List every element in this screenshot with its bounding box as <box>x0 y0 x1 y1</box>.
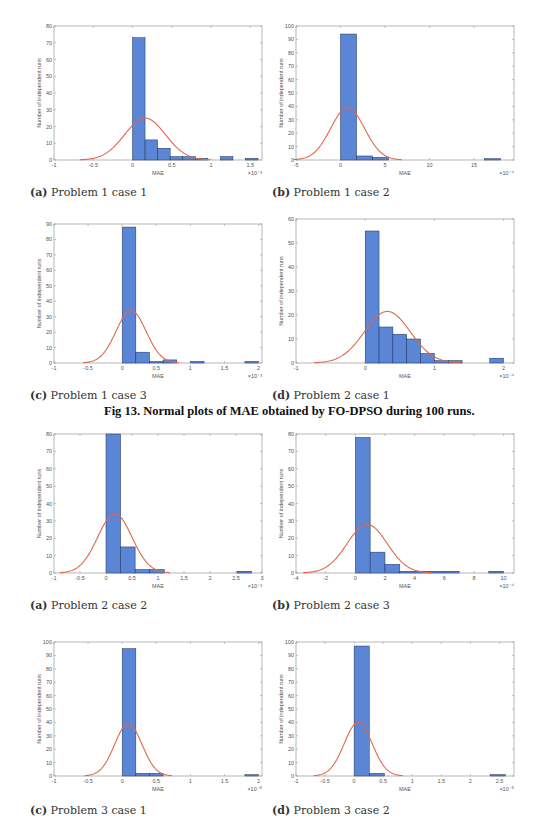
svg-text:2: 2 <box>208 575 211 581</box>
svg-text:20: 20 <box>288 535 294 541</box>
svg-text:90: 90 <box>288 36 294 42</box>
caption-text: Problem 2 case 1 <box>294 389 390 402</box>
svg-text:50: 50 <box>46 73 52 79</box>
svg-text:10: 10 <box>46 553 52 559</box>
caption-text: Problem 3 case 2 <box>294 804 390 817</box>
histogram-bar <box>421 353 435 363</box>
svg-text:20: 20 <box>46 535 52 541</box>
svg-text:60: 60 <box>288 466 294 472</box>
histogram-svg: -50510150102030405060708090100MAE×10⁻⁴Nu… <box>272 22 522 182</box>
chart-p2c1: -10120102030405060MAE×10⁻⁴Number of inde… <box>272 215 522 385</box>
svg-text:90: 90 <box>46 652 52 658</box>
histogram-bar <box>190 361 204 363</box>
svg-text:60: 60 <box>46 267 52 273</box>
svg-text:40: 40 <box>288 501 294 507</box>
chart-p2c2: -1-0.500.511.522.5301020304050607080MAE×… <box>30 430 270 595</box>
svg-text:80: 80 <box>288 666 294 672</box>
chart-p1c3: -1-0.500.511.520102030405060708090MAE×10… <box>30 220 270 385</box>
svg-text:Number of independent runs: Number of independent runs <box>36 468 42 538</box>
histogram-bar <box>340 34 356 160</box>
histogram-bar <box>136 352 150 363</box>
svg-text:100: 100 <box>285 23 294 29</box>
svg-text:-2: -2 <box>323 575 328 581</box>
svg-text:60: 60 <box>288 77 294 83</box>
caption-p1c1: (a) Problem 1 case 1 <box>30 186 147 199</box>
svg-text:10: 10 <box>501 575 507 581</box>
caption-p2c3: (b) Problem 2 case 3 <box>272 599 390 612</box>
svg-text:70: 70 <box>46 252 52 258</box>
svg-text:10: 10 <box>426 162 432 168</box>
histogram-bar <box>220 157 233 160</box>
svg-text:×10⁻⁴: ×10⁻⁴ <box>499 373 514 379</box>
caption-label: (d) <box>272 804 290 817</box>
histogram-bar <box>357 156 373 160</box>
svg-text:Number of independent runs: Number of independent runs <box>278 674 284 744</box>
svg-text:-0.5: -0.5 <box>75 575 84 581</box>
svg-text:2: 2 <box>383 575 386 581</box>
svg-text:1: 1 <box>433 365 436 371</box>
chart-p3c2: -1-0.500.511.522.50102030405060708090100… <box>272 638 522 798</box>
svg-text:90: 90 <box>46 221 52 227</box>
histogram-bar <box>170 157 183 160</box>
svg-text:10: 10 <box>46 345 52 351</box>
svg-text:Number of independent runs: Number of independent runs <box>278 58 284 128</box>
svg-text:1: 1 <box>156 575 159 581</box>
figure-title: Fig 13. Normal plots of MAE obtained by … <box>104 404 475 419</box>
histogram-bar <box>365 231 379 363</box>
svg-text:15: 15 <box>471 162 477 168</box>
svg-text:30: 30 <box>288 288 294 294</box>
svg-text:×10⁻⁴: ×10⁻⁴ <box>499 583 514 589</box>
histogram-svg: -1-0.500.511.522.5301020304050607080MAE×… <box>30 430 270 595</box>
svg-text:MAE: MAE <box>152 373 164 379</box>
svg-text:0: 0 <box>49 360 52 366</box>
svg-text:2: 2 <box>257 365 260 371</box>
histogram-bar <box>379 327 393 363</box>
caption-label: (b) <box>272 599 290 612</box>
svg-text:0: 0 <box>353 778 356 784</box>
svg-text:-0.5: -0.5 <box>83 778 92 784</box>
svg-text:60: 60 <box>288 693 294 699</box>
svg-text:Number of independent runs: Number of independent runs <box>36 258 42 328</box>
svg-text:-1: -1 <box>52 162 57 168</box>
svg-text:×10⁻⁴: ×10⁻⁴ <box>499 170 514 176</box>
svg-text:0: 0 <box>121 365 124 371</box>
chart-p2c3: -4-2024681001020304050607080MAE×10⁻⁴Numb… <box>272 430 522 595</box>
svg-text:1.5: 1.5 <box>221 778 229 784</box>
svg-text:×10⁻⁵: ×10⁻⁵ <box>499 786 514 792</box>
svg-text:0: 0 <box>291 773 294 779</box>
svg-text:0: 0 <box>291 360 294 366</box>
svg-text:60: 60 <box>46 693 52 699</box>
caption-label: (b) <box>272 186 290 199</box>
caption-label: (c) <box>30 389 47 402</box>
svg-text:Number of independent runs: Number of independent runs <box>278 256 284 326</box>
histogram-bar <box>354 646 369 776</box>
svg-text:0.5: 0.5 <box>379 778 387 784</box>
histogram-bar <box>245 361 259 363</box>
caption-label: (a) <box>30 186 48 199</box>
svg-text:-1: -1 <box>52 778 57 784</box>
svg-text:MAE: MAE <box>399 583 411 589</box>
caption-label: (a) <box>30 599 48 612</box>
svg-text:MAE: MAE <box>399 786 411 792</box>
histogram-bar <box>489 571 504 573</box>
svg-text:-0.5: -0.5 <box>83 365 92 371</box>
svg-text:2: 2 <box>257 778 260 784</box>
svg-text:1: 1 <box>209 162 212 168</box>
svg-text:40: 40 <box>288 103 294 109</box>
svg-text:50: 50 <box>288 240 294 246</box>
histogram-bar <box>122 227 136 363</box>
svg-text:1.5: 1.5 <box>221 365 229 371</box>
svg-text:6: 6 <box>443 575 446 581</box>
caption-p3c2: (d) Problem 3 case 2 <box>272 804 390 817</box>
svg-text:40: 40 <box>46 501 52 507</box>
svg-text:0: 0 <box>49 773 52 779</box>
svg-text:30: 30 <box>46 518 52 524</box>
svg-text:70: 70 <box>46 679 52 685</box>
histogram-svg: -4-2024681001020304050607080MAE×10⁻⁴Numb… <box>272 430 522 595</box>
histogram-bar <box>145 140 158 160</box>
svg-text:-0.5: -0.5 <box>89 162 98 168</box>
svg-text:3: 3 <box>260 575 263 581</box>
svg-text:×10⁻³: ×10⁻³ <box>248 373 262 379</box>
histogram-bar <box>444 571 459 573</box>
svg-text:70: 70 <box>46 40 52 46</box>
